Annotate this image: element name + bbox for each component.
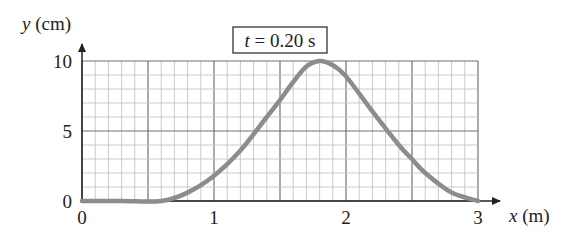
y-tick-10: 10	[53, 51, 72, 72]
wave-pulse-chart: t = 0.20 s y (cm) x (m) 10 5 0 0 1 2 3	[0, 0, 578, 239]
x-tick-2: 2	[341, 207, 351, 228]
x-tick-0: 0	[77, 207, 87, 228]
time-label-box: t = 0.20 s	[233, 27, 327, 53]
time-label: t = 0.20 s	[245, 30, 316, 51]
x-tick-1: 1	[209, 207, 219, 228]
x-axis-label: x (m)	[508, 205, 550, 227]
y-tick-5: 5	[63, 121, 73, 142]
x-tick-3: 3	[473, 207, 483, 228]
grid	[82, 61, 478, 201]
y-tick-0: 0	[63, 191, 73, 212]
y-axis-label: y (cm)	[20, 13, 71, 35]
